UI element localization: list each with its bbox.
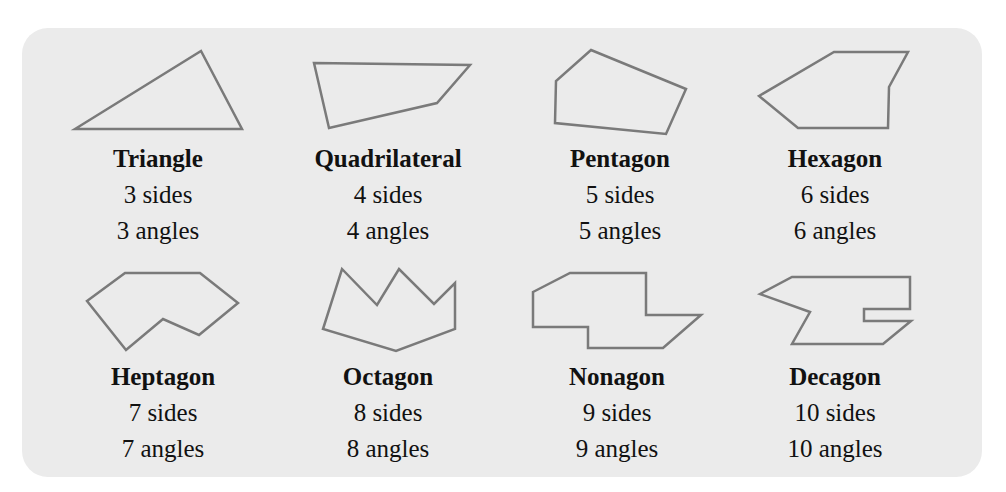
polygon-sides: 3 sides [48,177,268,213]
polygon-name: Heptagon [53,359,273,395]
polygon-label-pentagon: Pentagon 5 sides 5 angles [510,141,730,249]
polygon-angles: 8 angles [278,431,498,467]
polygon-angles: 10 angles [725,431,945,467]
heptagon-shape [87,273,238,350]
polygon-name: Hexagon [725,141,945,177]
polygon-label-hexagon: Hexagon 6 sides 6 angles [725,141,945,249]
polygon-name: Decagon [725,359,945,395]
polygon-sides: 8 sides [278,395,498,431]
polygon-label-octagon: Octagon 8 sides 8 angles [278,359,498,467]
pentagon-shape [555,50,686,134]
polygon-name: Octagon [278,359,498,395]
polygon-angles: 5 angles [510,213,730,249]
polygon-label-heptagon: Heptagon 7 sides 7 angles [53,359,273,467]
polygon-name: Nonagon [507,359,727,395]
nonagon-shape [533,273,701,348]
polygon-label-decagon: Decagon 10 sides 10 angles [725,359,945,467]
polygon-name: Triangle [48,141,268,177]
polygon-sides: 5 sides [510,177,730,213]
polygon-label-triangle: Triangle 3 sides 3 angles [48,141,268,249]
polygon-angles: 4 angles [278,213,498,249]
polygon-label-nonagon: Nonagon 9 sides 9 angles [507,359,727,467]
polygon-sides: 4 sides [278,177,498,213]
quadrilateral-shape [314,63,470,128]
polygon-sides: 9 sides [507,395,727,431]
triangle-shape [75,51,242,129]
polygon-angles: 3 angles [48,213,268,249]
polygon-sides: 10 sides [725,395,945,431]
hexagon-shape [759,52,908,128]
polygon-angles: 6 angles [725,213,945,249]
polygon-sides: 7 sides [53,395,273,431]
polygon-sides: 6 sides [725,177,945,213]
polygon-angles: 7 angles [53,431,273,467]
octagon-shape [323,269,455,351]
polygon-label-quadrilateral: Quadrilateral 4 sides 4 angles [278,141,498,249]
polygon-name: Quadrilateral [278,141,498,177]
polygon-name: Pentagon [510,141,730,177]
decagon-shape [760,277,911,344]
polygon-angles: 9 angles [507,431,727,467]
